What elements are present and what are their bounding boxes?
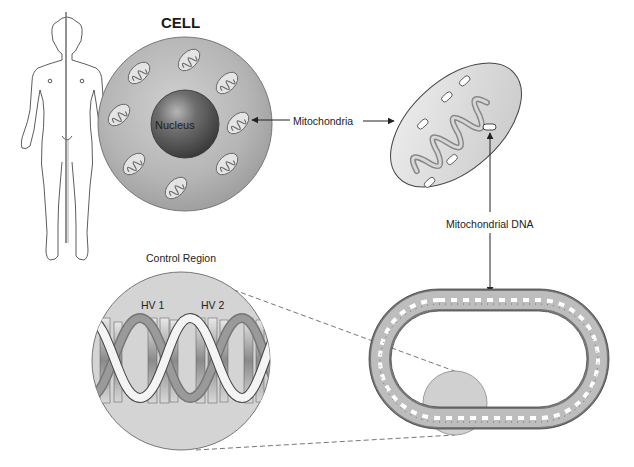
hv2-label: HV 2 (201, 299, 224, 311)
mitochondrial-dna-label: Mitochondrial DNA (446, 218, 534, 230)
cell-title: CELL (161, 14, 200, 31)
mtdna-marker (483, 124, 496, 130)
hv1-label: HV 1 (141, 299, 164, 311)
circular-mitochondrial-dna (369, 289, 609, 429)
mitochondrion (368, 39, 544, 210)
nucleus-label: Nucleus (155, 119, 195, 131)
zoom-line-bottom (196, 435, 455, 450)
control-region-label: Control Region (146, 252, 216, 264)
mtdna-diagram: CELL Nucleus Mitochondria Mitochondrial … (0, 0, 634, 467)
control-region-magnified-helix (88, 272, 290, 450)
mitochondria-label: Mitochondria (293, 115, 353, 127)
diagram-canvas (0, 0, 634, 467)
